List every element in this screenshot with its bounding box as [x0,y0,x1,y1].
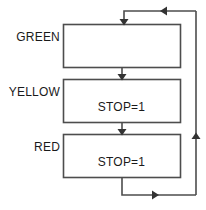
flowchart-diagram: GREEN YELLOW RED STOP=1 STOP=1 [0,0,206,210]
state-box-text-yellow: STOP=1 [63,101,180,113]
transition-right-riser [192,11,201,195]
transition-top-bus-to-green [120,7,197,26]
state-label-yellow: YELLOW [2,86,60,98]
state-box-text-red: STOP=1 [63,156,180,168]
state-box-green [64,25,181,68]
state-label-green: GREEN [8,31,60,43]
transition-green-to-yellow [118,67,127,81]
state-label-red: RED [16,141,60,153]
transition-red-to-bottom-bus [122,177,196,200]
transition-yellow-to-red [118,122,127,136]
